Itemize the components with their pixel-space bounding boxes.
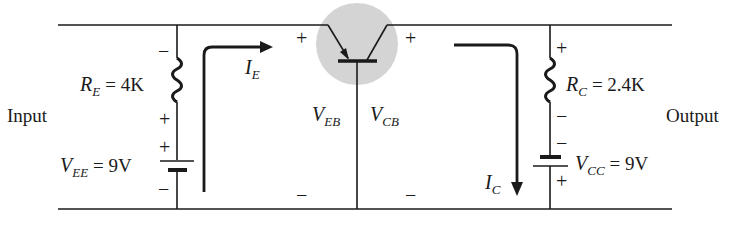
- vcc-bottom-plus: +: [556, 170, 567, 192]
- resistor-rc-icon: [546, 58, 555, 102]
- veb-minus: −: [296, 184, 307, 206]
- input-label: Input: [7, 105, 48, 126]
- veb-label: VEB: [312, 103, 340, 129]
- vcb-label: VCB: [370, 103, 399, 129]
- circuit-diagram: Input Output RE= 4K VEE= 9V RC= 2.4K VCC…: [0, 0, 748, 229]
- rc-label: RC= 2.4K: [565, 73, 645, 99]
- ie-label: IE: [244, 56, 260, 82]
- rc-bottom-minus: −: [556, 105, 567, 127]
- rc-top-plus: +: [556, 37, 567, 59]
- vcc-top-minus: −: [556, 132, 567, 154]
- veb-plus: +: [296, 27, 307, 49]
- ie-current-arrow-icon: [204, 41, 273, 192]
- output-label: Output: [666, 105, 720, 126]
- vee-label: VEE= 9V: [60, 154, 132, 180]
- ic-label: IC: [484, 171, 501, 197]
- vcb-plus: +: [405, 27, 416, 49]
- resistor-re-icon: [173, 58, 182, 102]
- re-top-minus: −: [158, 40, 169, 62]
- re-label: RE= 4K: [79, 73, 144, 99]
- vee-bottom-minus: −: [158, 178, 169, 200]
- vcc-label: VCC= 9V: [575, 152, 649, 178]
- vee-top-plus: +: [159, 136, 170, 158]
- vcb-minus: −: [405, 184, 416, 206]
- re-bottom-plus: +: [159, 108, 170, 130]
